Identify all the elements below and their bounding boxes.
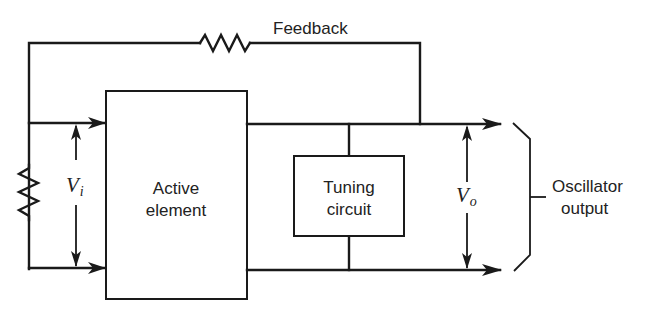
feedback-label: Feedback [273,19,348,38]
tuning-circuit-label-line2: circuit [327,200,372,219]
feedback-resistor [200,35,250,51]
upper-input-wire [29,117,106,129]
lower-input-wire [29,262,106,274]
active-element-block: Active element [106,91,247,299]
oscillator-output-label-line2: output [561,199,609,218]
active-element-label-line1: Active [153,179,199,198]
upper-output-wire [247,118,502,130]
oscillator-diagram: Vi Active element Tuning circuit Vo Feed… [0,0,646,320]
tuning-circuit-block: Tuning circuit [294,156,404,236]
active-element-label-line2: element [146,201,207,220]
tuning-circuit-label-line1: Tuning [323,178,374,197]
lower-output-wire [247,264,502,276]
oscillator-output-label-line1: Oscillator [552,177,623,196]
output-bracket [513,123,530,271]
input-voltage-label: Vi [66,173,84,199]
output-voltage-label: Vo [456,183,477,209]
